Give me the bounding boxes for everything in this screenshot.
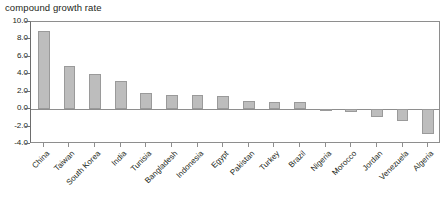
compound-growth-rate-chart: compound growth rate 10.08.06.04.02.00.0… bbox=[0, 0, 446, 215]
x-axis-tick-mark bbox=[350, 143, 351, 147]
x-axis-tick-mark bbox=[402, 143, 403, 147]
x-axis-tick-mark bbox=[145, 143, 146, 147]
bar bbox=[397, 109, 409, 121]
x-axis-tick-mark bbox=[299, 143, 300, 147]
bar bbox=[64, 66, 76, 109]
bar bbox=[115, 81, 127, 109]
x-axis-tick-mark bbox=[68, 143, 69, 147]
bar bbox=[294, 102, 306, 109]
x-axis-tick-mark bbox=[197, 143, 198, 147]
x-axis-tick-label: China bbox=[30, 149, 51, 170]
x-axis-tick-mark bbox=[43, 143, 44, 147]
bar bbox=[140, 93, 152, 110]
bar bbox=[38, 31, 50, 109]
x-axis-tick-label: Brazil bbox=[287, 149, 308, 170]
x-axis-tick-label: Turkey bbox=[258, 149, 281, 172]
x-axis-tick-mark bbox=[171, 143, 172, 147]
bar bbox=[243, 101, 255, 109]
bars-container bbox=[31, 22, 439, 142]
x-axis-tick-label: Jordan bbox=[361, 149, 385, 173]
x-axis-tick-mark bbox=[427, 143, 428, 147]
x-axis-tick-mark bbox=[222, 143, 223, 147]
x-axis-tick-mark bbox=[248, 143, 249, 147]
bar bbox=[217, 96, 229, 109]
x-axis-tick-label: Taiwan bbox=[53, 149, 77, 173]
x-axis-tick-mark bbox=[120, 143, 121, 147]
bar bbox=[89, 74, 101, 109]
bar bbox=[269, 102, 281, 109]
bar bbox=[371, 109, 383, 117]
x-axis-tick-mark bbox=[94, 143, 95, 147]
x-axis-tick-mark bbox=[273, 143, 274, 147]
bar bbox=[345, 109, 357, 112]
x-axis-tick-label: Algeria bbox=[412, 149, 436, 173]
x-axis-tick-mark bbox=[325, 143, 326, 147]
bar bbox=[320, 109, 332, 111]
chart-title: compound growth rate bbox=[5, 2, 102, 14]
x-axis-tick-label: India bbox=[109, 149, 128, 168]
x-axis-tick-label: Egypt bbox=[210, 149, 231, 170]
x-axis-tick-label: Tunisia bbox=[129, 149, 153, 173]
bar bbox=[422, 109, 434, 133]
plot-area bbox=[30, 21, 440, 143]
x-axis-tick-mark bbox=[376, 143, 377, 147]
y-axis-tick-mark bbox=[25, 143, 30, 144]
bar bbox=[192, 95, 204, 109]
bar bbox=[166, 95, 178, 109]
